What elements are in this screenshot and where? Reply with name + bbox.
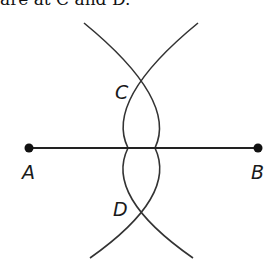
label-c: C (115, 81, 129, 103)
arc-from-a (84, 23, 160, 258)
label-a: A (20, 161, 35, 183)
point-a (25, 144, 34, 153)
label-d: D (113, 198, 128, 220)
point-b (254, 144, 263, 153)
arc-from-b (123, 23, 198, 258)
label-b: B (251, 161, 264, 183)
construction-diagram: A B C D (0, 0, 270, 275)
